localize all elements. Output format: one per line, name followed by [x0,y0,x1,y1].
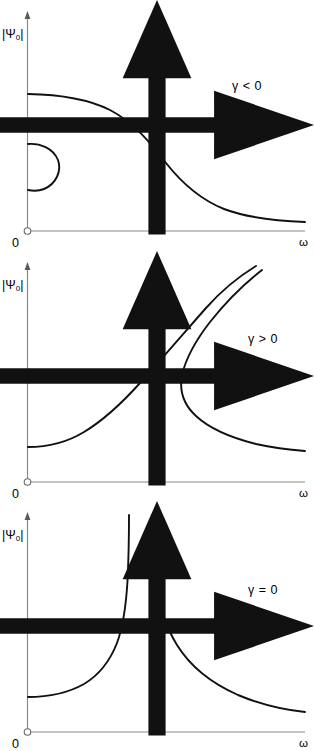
panel-gamma-positive: |Ψ0| 0 ω γ > 0 [0,251,314,501]
annotation-gamma-condition: γ = 0 [248,584,278,597]
x-axis-right-arrow-icon [0,251,314,501]
resonance-response-figure: |Ψ0| 0 ω γ < 0 |Ψ0| 0 ω [0,0,314,751]
x-axis-right-arrow-icon [0,501,314,751]
annotation-gamma-condition: γ < 0 [232,80,262,93]
annotation-gamma-condition: γ > 0 [248,333,278,346]
panel-gamma-zero: |Ψ0| 0 ω γ = 0 [0,501,314,751]
panel-gamma-negative: |Ψ0| 0 ω γ < 0 [0,0,314,250]
x-axis-right-arrow-icon [0,0,314,250]
